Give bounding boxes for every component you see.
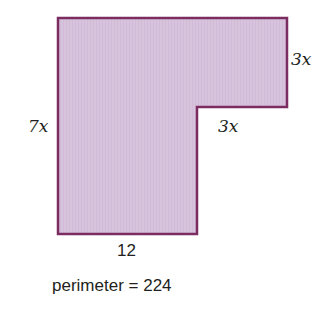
- l-shape-diagram: [0, 0, 317, 314]
- inner-step-label: 3x: [218, 116, 238, 136]
- left-side-label: 7x: [28, 116, 48, 136]
- l-shape: [58, 18, 287, 234]
- perimeter-caption: perimeter = 224: [52, 276, 172, 296]
- top-right-side-label: 3x: [291, 49, 311, 69]
- bottom-side-label: 12: [117, 241, 136, 261]
